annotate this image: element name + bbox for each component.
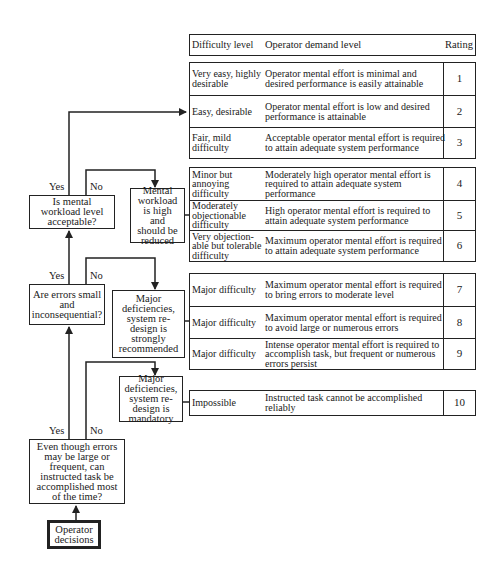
start-operator-decisions: Operator decisions (47, 520, 101, 549)
table-row: Major difficulty Intense operator mental… (190, 338, 475, 369)
difficulty-cell: Major difficulty (192, 274, 264, 306)
rating-cell: 10 (443, 391, 475, 415)
no-label-accomplish: No (90, 425, 103, 436)
table-row: Moderately objectionable difficulty High… (190, 200, 475, 230)
header-difficulty: Difficulty level (192, 35, 264, 55)
rating-cell: 4 (443, 168, 475, 200)
outcome-redesign-recommended: Major deficiencies, system re-design is … (112, 290, 185, 358)
table-row: Very easy, highly desirable Operator men… (190, 63, 475, 95)
difficulty-cell: Easy, desirable (192, 96, 264, 127)
table-row: Impossible Instructed task cannot be acc… (190, 391, 475, 415)
demand-cell: Instructed task cannot be accomplished r… (263, 391, 445, 415)
difficulty-cell: Major difficulty (192, 307, 264, 338)
rating-group-3: Major difficulty Maximum operator mental… (189, 273, 476, 370)
rating-group-1: Very easy, highly desirable Operator men… (189, 62, 476, 159)
demand-cell: Intense operator mental effort is requir… (263, 339, 445, 369)
table-row: Fair, mild difficulty Acceptable operato… (190, 127, 475, 158)
demand-cell: Operator mental effort is low and desire… (263, 96, 445, 127)
table-header: Difficulty level Operator demand level R… (189, 34, 476, 56)
no-label-errors: No (90, 270, 103, 281)
rating-cell: 2 (443, 96, 475, 127)
demand-cell: Operator mental effort is minimal and de… (263, 63, 445, 95)
decision-errors-small: Are errors small and inconsequential? (29, 284, 105, 325)
rating-cell: 1 (443, 63, 475, 95)
demand-cell: High operator mental effort is required … (263, 201, 445, 230)
yes-label-workload: Yes (49, 181, 64, 192)
rating-cell: 9 (443, 339, 475, 369)
demand-cell: Maximum operator mental effort is requir… (263, 274, 445, 306)
decision-workload-acceptable: Is mental workload level acceptable? (29, 195, 115, 229)
header-demand: Operator demand level (263, 35, 445, 55)
yes-label-accomplish: Yes (49, 425, 64, 436)
rating-cell: 8 (443, 307, 475, 338)
table-row: Major difficulty Maximum operator mental… (190, 274, 475, 306)
no-label-workload: No (90, 181, 103, 192)
table-row: Easy, desirable Operator mental effort i… (190, 95, 475, 127)
demand-cell: Maximum operator mental effort is requir… (263, 307, 445, 338)
yes-label-errors: Yes (49, 270, 64, 281)
rating-cell: 6 (443, 231, 475, 261)
difficulty-cell: Fair, mild difficulty (192, 128, 264, 158)
difficulty-cell: Very objection-able but tolerable diffic… (192, 231, 264, 261)
table-row: Very objection-able but tolerable diffic… (190, 230, 475, 261)
table-row: Minor but annoying difficulty Moderately… (190, 168, 475, 200)
difficulty-cell: Minor but annoying difficulty (192, 168, 264, 200)
demand-cell: Maximum operator mental effort is requir… (263, 231, 445, 261)
difficulty-cell: Very easy, highly desirable (192, 63, 264, 95)
table-row: Major difficulty Maximum operator mental… (190, 306, 475, 338)
rating-cell: 7 (443, 274, 475, 306)
difficulty-cell: Impossible (192, 391, 264, 415)
rating-group-4: Impossible Instructed task cannot be acc… (189, 390, 476, 416)
demand-cell: Moderately high operator mental effort i… (263, 168, 445, 200)
rating-cell: 5 (443, 201, 475, 230)
demand-cell: Acceptable operator mental effort is req… (263, 128, 445, 158)
rating-cell: 3 (443, 128, 475, 158)
header-rating: Rating (445, 35, 473, 55)
difficulty-cell: Major difficulty (192, 339, 264, 369)
rating-group-2: Minor but annoying difficulty Moderately… (189, 167, 476, 262)
difficulty-cell: Moderately objectionable difficulty (192, 201, 264, 230)
outcome-reduce-workload: Mental workload is high and should be re… (130, 188, 185, 243)
decision-task-accomplishable: Even though errors may be large or frequ… (29, 439, 125, 504)
outcome-redesign-mandatory: Major deficiencies, system re-design is … (119, 376, 183, 422)
